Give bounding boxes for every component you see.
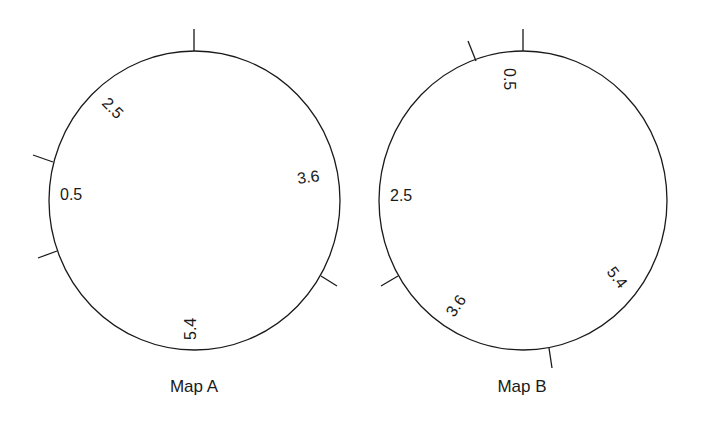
map-b-tick-bottom [549,348,552,368]
map-b-label-3-6: 3.6 [443,292,470,320]
map-a-tick-left-upper [33,155,53,162]
map-a-tick-right-lower [321,276,337,286]
map-b-circle [379,51,667,350]
map-b-tick-top-left [468,41,476,61]
map-a-label-3-6: 3.6 [296,167,320,187]
map-b-label-2-5: 2.5 [390,187,412,204]
map-a-circle [49,51,340,350]
map-a-title: Map A [170,377,219,396]
map-b-title: Map B [497,377,546,396]
map-a-label-5-4: 5.4 [182,318,199,340]
map-a-label-2-5: 2.5 [99,94,127,122]
map-b-label-5-4: 5.4 [604,263,631,291]
map-b-tick-left-lower [381,276,398,286]
map-b-label-0-5: 0.5 [501,68,518,90]
restriction-maps-diagram: 2.5 0.5 3.6 5.4 Map A 0.5 2.5 3.6 5.4 Ma… [0,0,705,421]
map-a-tick-left-lower [38,251,57,258]
map-b: 0.5 2.5 3.6 5.4 Map B [379,29,667,396]
map-a: 2.5 0.5 3.6 5.4 Map A [33,29,340,396]
map-a-label-0-5: 0.5 [60,186,82,203]
